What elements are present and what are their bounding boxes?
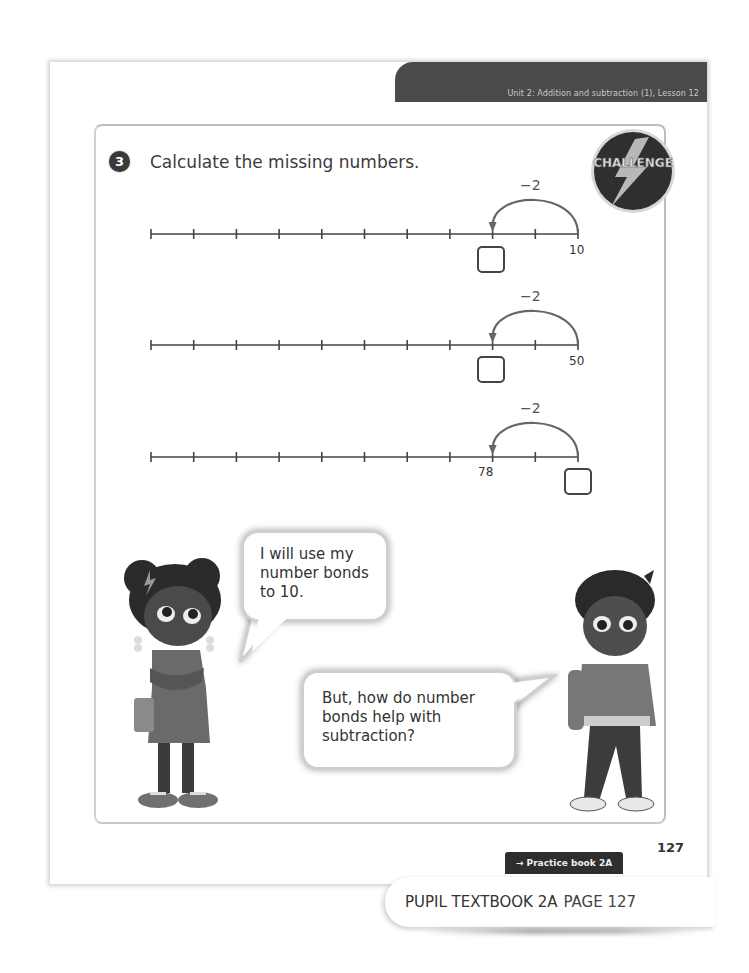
known-value-3: 78 [478,465,493,479]
boy-character-illustration [560,566,670,826]
boy-speech-bubble: But, how do number bonds help with subtr… [304,673,514,767]
book-page: PAGE 127 [563,893,636,911]
number-lines-drawing [0,0,749,973]
practice-book-reference[interactable]: → Practice book 2A p92 [505,852,623,874]
jump-label-2: −2 [520,288,541,304]
jump-label-1: −2 [520,177,541,193]
girl-bubble-tail-cover [240,600,320,660]
girl-speech-text: I will use my number bonds to 10. [260,545,369,601]
footer-shadow [420,929,700,934]
book-title: PUPIL TEXTBOOK 2A [405,893,557,911]
jump-label-3: −2 [520,400,541,416]
answer-box-3[interactable] [564,468,592,495]
answer-box-2[interactable] [477,356,505,383]
footer-book-label: PUPIL TEXTBOOK 2APAGE 127 [405,893,636,911]
boy-speech-text: But, how do number bonds help with subtr… [322,689,475,745]
known-value-2: 50 [569,354,584,368]
known-value-1: 10 [569,243,584,257]
boy-bubble-tail-cover [500,678,550,718]
answer-box-1[interactable] [477,246,505,273]
girl-character-illustration [120,558,230,818]
page-number: 127 [657,840,684,855]
